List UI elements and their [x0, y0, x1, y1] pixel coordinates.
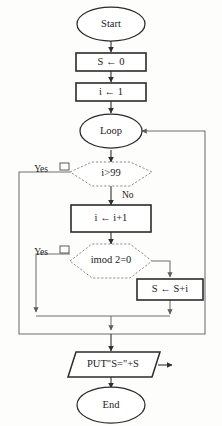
node-end[interactable]: End [77, 387, 145, 423]
node-loop[interactable]: Loop [80, 114, 142, 148]
cond-even-yes-marker-icon [60, 246, 69, 253]
node-start[interactable]: Start [77, 7, 145, 41]
init-s-label: S ← 0 [98, 56, 125, 67]
connector-cond-even-yes-to-merge [36, 254, 70, 312]
node-cond-i99[interactable]: i>99 Yes No [34, 162, 152, 200]
cond-even-label: imod 2=0 [91, 254, 132, 265]
node-incr-i[interactable]: i ← i+1 [71, 205, 151, 232]
end-label: End [103, 399, 121, 410]
flowchart-diagram: Start S ← 0 i ← 1 Loop i>99 Yes No i ← i… [0, 0, 222, 426]
node-init-i[interactable]: i ← 1 [76, 83, 146, 101]
cond-even-yes-label: Yes [34, 247, 48, 257]
output-label: PUT"S="+S [87, 358, 139, 369]
loop-label: Loop [100, 125, 122, 136]
init-i-label: i ← 1 [99, 86, 123, 97]
node-cond-even[interactable]: imod 2=0 Yes [34, 244, 152, 278]
accum-s-label: S ← S+i [152, 283, 188, 294]
start-label: Start [101, 18, 121, 29]
cond-i99-yes-label: Yes [34, 164, 48, 174]
cond-i99-no-label: No [122, 190, 134, 200]
node-accum-s[interactable]: S ← S+i [137, 279, 203, 300]
connector-cond-even-no-to-accum [152, 261, 170, 277]
cond-i99-label: i>99 [101, 167, 120, 178]
node-output[interactable]: PUT"S="+S [68, 352, 160, 377]
incr-i-label: i ← i+1 [95, 212, 128, 223]
cond-i99-yes-marker-icon [60, 163, 69, 170]
node-init-s[interactable]: S ← 0 [76, 53, 146, 71]
